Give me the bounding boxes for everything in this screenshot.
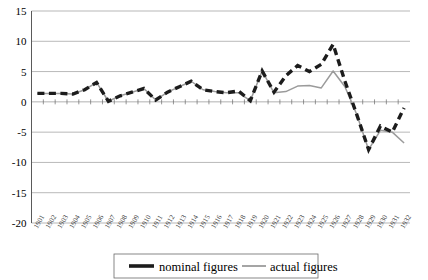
y-axis-tick-labels: 151050-5-10-15-20 bbox=[12, 5, 27, 229]
series-line-nominal-figures bbox=[37, 44, 404, 149]
y-axis-tick-label: -10 bbox=[12, 156, 27, 168]
legend-label-nominal: nominal figures bbox=[159, 260, 238, 274]
x-axis-tick-label: 1904 bbox=[68, 213, 82, 230]
y-axis-tick-label: -5 bbox=[17, 126, 27, 138]
x-axis-tick-label: 1907 bbox=[103, 213, 117, 230]
x-axis-tick-label: 1923 bbox=[292, 213, 306, 230]
x-axis-tick-label: 1902 bbox=[44, 213, 58, 230]
gridlines bbox=[32, 11, 411, 223]
x-axis-tick-label: 1927 bbox=[340, 213, 354, 230]
x-axis-tick-label: 1922 bbox=[281, 213, 295, 230]
chart-container: 151050-5-10-15-20 1901190219031904190519… bbox=[0, 0, 428, 280]
x-axis-tick-label: 1915 bbox=[198, 213, 212, 230]
line-chart: 151050-5-10-15-20 1901190219031904190519… bbox=[0, 0, 428, 280]
series-line-actual-figures bbox=[37, 71, 404, 150]
chart-legend: nominal figures actual figures bbox=[114, 254, 338, 278]
y-axis-tick-label: -20 bbox=[12, 217, 27, 229]
x-axis-tick-label: 1920 bbox=[257, 213, 271, 230]
x-axis-tick-label: 1911 bbox=[150, 213, 164, 230]
x-axis-tick-label: 1905 bbox=[80, 213, 94, 230]
y-axis-tick-label: 0 bbox=[21, 96, 27, 108]
x-axis-tick-label: 1928 bbox=[352, 213, 366, 230]
x-axis-tick-label: 1926 bbox=[328, 213, 342, 230]
x-axis-tick-label: 1929 bbox=[363, 213, 377, 230]
x-axis-tick-label: 1903 bbox=[56, 213, 70, 230]
legend-label-actual: actual figures bbox=[270, 260, 338, 274]
y-axis-tick-label: 15 bbox=[16, 5, 28, 17]
x-axis-tick-label: 1912 bbox=[162, 213, 176, 230]
y-axis-tick-label: -15 bbox=[12, 187, 27, 199]
x-axis-tick-label: 1931 bbox=[387, 213, 401, 230]
y-axis-tick-label: 5 bbox=[21, 66, 27, 78]
x-axis-tick-label: 1932 bbox=[399, 213, 413, 230]
x-axis-tick-label: 1919 bbox=[245, 213, 259, 230]
x-axis-tick-label: 1910 bbox=[139, 213, 153, 230]
x-axis-tick-label: 1913 bbox=[174, 213, 188, 230]
x-axis-tick-label: 1930 bbox=[375, 213, 389, 230]
x-axis-tick-labels: 1901190219031904190519061907190819091910… bbox=[32, 213, 413, 230]
x-axis-tick-label: 1906 bbox=[91, 213, 105, 230]
x-axis-tick-label: 1921 bbox=[269, 213, 283, 230]
x-axis-tick-label: 1901 bbox=[32, 213, 46, 230]
x-axis-tick-label: 1914 bbox=[186, 213, 200, 230]
x-axis-tick-label: 1909 bbox=[127, 213, 141, 230]
x-axis-tick-label: 1925 bbox=[316, 213, 330, 230]
y-axis-tick-label: 10 bbox=[16, 35, 28, 47]
x-axis-tick-label: 1918 bbox=[233, 213, 247, 230]
x-axis-tick-label: 1917 bbox=[221, 213, 235, 230]
x-axis-tick-label: 1924 bbox=[304, 213, 318, 230]
x-axis-tick-label: 1908 bbox=[115, 213, 129, 230]
x-axis-tick-label: 1916 bbox=[210, 213, 224, 230]
